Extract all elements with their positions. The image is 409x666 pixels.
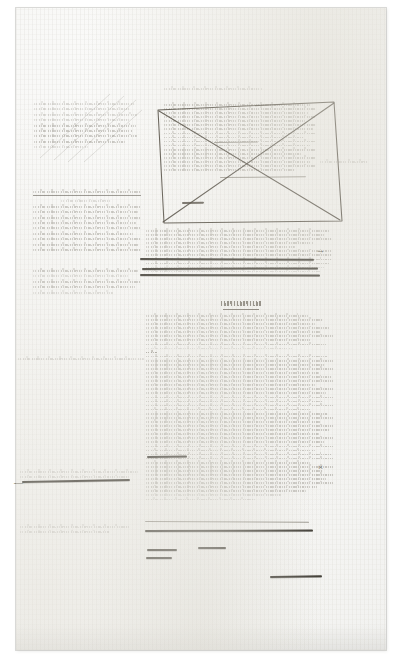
- handwriting-line: [146, 499, 255, 501]
- handwriting-line: [146, 315, 308, 317]
- handwriting-line: [146, 384, 315, 386]
- left-margin-note-1: [18, 358, 144, 363]
- handwriting-line: [146, 327, 330, 329]
- handwriting-line: [146, 433, 319, 435]
- handwriting-line: [20, 471, 138, 473]
- handwriting-line: [146, 376, 332, 378]
- handwriting-line: [146, 417, 334, 419]
- handwriting-line: [146, 474, 334, 476]
- handwriting-line: [320, 161, 368, 163]
- handwriting-line: [33, 206, 141, 208]
- inline-cancellation: [146, 557, 172, 559]
- handwriting-line: [146, 413, 328, 415]
- handwriting-line: [146, 392, 326, 394]
- handwriting-line: [146, 450, 315, 452]
- handwriting-line: [33, 292, 113, 294]
- left-margin-note-2: [20, 526, 130, 537]
- handwriting-line: [146, 466, 334, 468]
- handwriting-line: [146, 421, 321, 423]
- handwriting-line: [146, 446, 334, 448]
- main-column: [146, 315, 334, 503]
- handwriting-line: [146, 339, 311, 341]
- handwriting-line: [146, 323, 315, 325]
- handwriting-line: [146, 238, 332, 240]
- handwriting-line: [33, 286, 135, 288]
- inline-cancellation: [147, 456, 187, 458]
- insert-mark: —: [14, 478, 23, 487]
- handwriting-line: [146, 478, 326, 480]
- handwriting-line: [146, 441, 325, 443]
- handwriting-line: [146, 335, 334, 337]
- handwriting-line: [146, 368, 334, 370]
- handwriting-line: [146, 437, 334, 439]
- handwriting-line: [33, 233, 133, 235]
- inline-cancellation: [198, 547, 226, 549]
- manuscript-sheet: →: [16, 8, 386, 650]
- handwriting-line: [146, 458, 334, 460]
- handwriting-line: [146, 356, 328, 358]
- left-column-mid: [33, 191, 141, 254]
- strikethrough-rule: [145, 530, 313, 532]
- handwriting-line: [146, 486, 317, 488]
- handwriting-line: [146, 348, 293, 350]
- handwriting-line: [164, 88, 262, 90]
- cross-mark: ×: [318, 463, 323, 472]
- handwriting-line: [146, 344, 326, 346]
- box-header-line: [164, 88, 262, 93]
- handwriting-line: [146, 401, 323, 403]
- inline-cancellation: [147, 549, 177, 551]
- strikethrough-rule: [140, 274, 320, 276]
- handwriting-line: [20, 526, 130, 528]
- handwriting-line: [33, 281, 141, 283]
- handwriting-line: [146, 246, 295, 248]
- underline-rule: [33, 195, 141, 196]
- handwriting-line: [33, 222, 136, 224]
- handwriting-line: [146, 254, 332, 256]
- section-heading-glyphs: [221, 301, 261, 306]
- handwriting-line: [146, 263, 330, 265]
- handwriting-line: [146, 372, 319, 374]
- handwriting-line: [146, 230, 330, 232]
- handwriting-line: [146, 405, 334, 407]
- handwriting-line: [61, 200, 111, 202]
- handwriting-line: [146, 319, 323, 321]
- handwriting-line: [33, 275, 128, 277]
- handwriting-line: [146, 409, 311, 411]
- handwriting-line: [146, 397, 334, 399]
- handwriting-line: [20, 531, 110, 533]
- document-kind: handwritten-manuscript-page: [0, 0, 1, 1]
- manuscript-page: →: [0, 0, 409, 666]
- handwriting-line-underlined: [33, 191, 141, 193]
- handwriting-line: [33, 227, 141, 229]
- diagonal-shading: [32, 96, 142, 164]
- handwriting-line: [18, 358, 144, 360]
- handwriting-line: [33, 238, 141, 240]
- document-legibility: illegible at reproduction scale: [0, 0, 1, 1]
- handwriting-line: [146, 388, 334, 390]
- document-medium: brown iron-gall ink on laid paper: [0, 0, 1, 1]
- handwriting-line: [146, 364, 325, 366]
- handwriting-line: [146, 425, 334, 427]
- handwriting-line: [146, 380, 334, 382]
- handwriting-line: [20, 476, 129, 478]
- right-margin-note: [320, 161, 368, 166]
- strikethrough-rule: [145, 521, 309, 523]
- handwriting-line: [146, 234, 325, 236]
- handwriting-line: [146, 490, 306, 492]
- handwriting-line: [146, 250, 332, 252]
- handwriting-line: [146, 429, 330, 431]
- left-column-lower: [33, 270, 141, 297]
- handwriting-line: [146, 482, 334, 484]
- handwriting-line: [146, 352, 157, 354]
- handwriting-line: [146, 242, 313, 244]
- document-script: German Kurrent cursive: [0, 0, 1, 1]
- caret-mark: →: [316, 246, 325, 255]
- handwriting-line: [33, 249, 141, 251]
- section-heading-underline: [223, 309, 260, 310]
- handwriting-line: [146, 271, 321, 273]
- handwriting-line: [33, 244, 139, 246]
- handwriting-line: [33, 217, 141, 219]
- handwriting-line: [146, 331, 321, 333]
- handwriting-line: [146, 462, 310, 464]
- section-heading: [221, 301, 261, 310]
